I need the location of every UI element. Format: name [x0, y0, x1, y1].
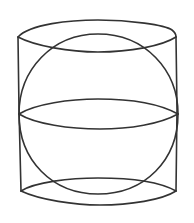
- cylinder-bottom-back-arc: [21, 178, 176, 191]
- sphere-equator-back-arc: [19, 99, 178, 114]
- cylinder-bottom-front-arc: [21, 191, 176, 205]
- diagram-canvas: [0, 0, 194, 223]
- sphere-equator-front-arc: [19, 114, 178, 129]
- sphere-outline: [19, 34, 178, 194]
- cylinder-top-front-arc: [18, 37, 176, 52]
- sphere-in-cylinder-figure: [0, 0, 194, 223]
